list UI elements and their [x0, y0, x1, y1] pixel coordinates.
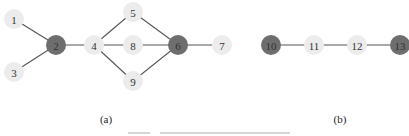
node-8: 8 — [123, 35, 143, 55]
node-4: 4 — [84, 35, 104, 55]
caption-fragment — [160, 132, 290, 134]
node-label: 13 — [395, 40, 407, 52]
node-3: 3 — [4, 62, 24, 82]
figure-caption-cropped — [0, 131, 409, 136]
caption-fragment — [128, 132, 150, 134]
node-7: 7 — [212, 35, 232, 55]
node-11: 11 — [304, 35, 324, 55]
node-13: 13 — [390, 35, 409, 55]
node-6: 6 — [168, 35, 188, 55]
panel-label-a: (a) — [100, 113, 113, 126]
node-label: 12 — [352, 40, 363, 52]
network-diagram: 12345896710111213 (a)(b) — [0, 0, 409, 136]
node-label: 7 — [219, 40, 225, 52]
node-1: 1 — [4, 9, 24, 29]
node-5: 5 — [123, 2, 143, 22]
node-10: 10 — [261, 35, 281, 55]
node-label: 2 — [53, 40, 59, 52]
node-label: 3 — [11, 67, 17, 79]
edges — [14, 12, 400, 81]
node-label: 8 — [130, 40, 136, 52]
node-label: 4 — [91, 40, 97, 52]
node-9: 9 — [123, 71, 143, 91]
node-label: 6 — [175, 40, 181, 52]
node-label: 11 — [309, 40, 320, 52]
node-2: 2 — [46, 35, 66, 55]
nodes: 12345896710111213 — [4, 2, 409, 91]
node-label: 9 — [130, 76, 136, 88]
node-label: 1 — [11, 14, 17, 26]
node-label: 5 — [130, 7, 136, 19]
node-12: 12 — [347, 35, 367, 55]
panel-label-b: (b) — [334, 113, 347, 126]
panel-labels: (a)(b) — [100, 113, 347, 126]
node-label: 10 — [266, 40, 278, 52]
